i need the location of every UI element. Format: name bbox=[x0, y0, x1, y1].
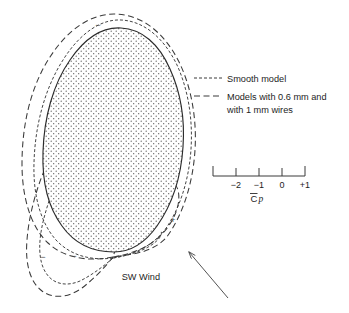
scale-tick-label-minus1: −1 bbox=[254, 180, 264, 190]
axis-title-c-symbol: C bbox=[251, 193, 258, 204]
sign-minus-inner: − bbox=[71, 251, 76, 261]
sign-plus-right: + bbox=[170, 215, 175, 225]
pressure-distribution-figure: − + − − Smooth model Models with 0.6 mm … bbox=[0, 0, 349, 313]
legend: Smooth model Models with 0.6 mm and with… bbox=[194, 74, 327, 115]
figure-root: − + − − Smooth model Models with 0.6 mm … bbox=[0, 0, 349, 313]
wind-label: SW Wind bbox=[122, 272, 160, 282]
legend-label-wire-models-line1: Models with 0.6 mm and bbox=[227, 92, 327, 102]
wind-annotation: SW Wind bbox=[122, 252, 228, 298]
scale-bar: −2 −1 0 +1 C p bbox=[213, 166, 310, 204]
legend-item-wire-models[interactable]: Models with 0.6 mm and with 1 mm wires bbox=[194, 92, 327, 115]
building-plan-outline bbox=[43, 28, 184, 252]
scale-bar-axis-title: C p bbox=[250, 193, 264, 204]
scale-tick-label-minus2: −2 bbox=[231, 180, 241, 190]
scale-tick-label-plus1: +1 bbox=[300, 180, 310, 190]
wind-arrow-icon bbox=[189, 252, 228, 298]
legend-item-smooth-model[interactable]: Smooth model bbox=[194, 74, 286, 84]
sign-minus-outer: − bbox=[40, 252, 45, 262]
sign-minus-top: − bbox=[95, 20, 100, 30]
scale-tick-label-zero: 0 bbox=[279, 180, 284, 190]
legend-label-smooth-model: Smooth model bbox=[227, 74, 286, 84]
axis-title-p-symbol: p bbox=[258, 194, 264, 204]
legend-label-wire-models-line2: with 1 mm wires bbox=[226, 105, 293, 115]
